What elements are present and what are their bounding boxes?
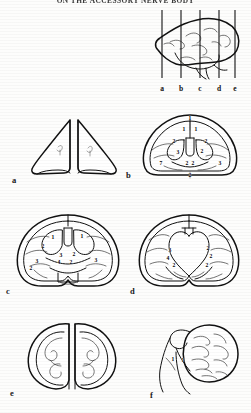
panel-letter-d: d <box>130 286 135 296</box>
callout-b-11: 3 <box>219 161 222 167</box>
panel-e: e <box>22 320 122 392</box>
callout-c-6: 3 <box>36 259 39 265</box>
plane-label-d: d <box>214 84 224 93</box>
callout-f-1: 1 <box>172 357 175 363</box>
callout-b-8: 7 <box>160 161 163 167</box>
callout-c-5: 2 <box>73 252 76 258</box>
panel-letter-a: a <box>12 175 16 185</box>
callout-b-4: 2 <box>173 139 176 145</box>
panel-d: 3 2 4 2 2 2 d <box>136 212 242 290</box>
plane-label-e: e <box>230 84 240 93</box>
panel-b: 1 1 1 2 2 3 2 7 2 2 3 2 b <box>140 112 240 178</box>
panel-letter-b: b <box>126 170 131 180</box>
callout-b-9: 2 <box>186 161 189 167</box>
callout-c-2: 1 <box>81 234 84 240</box>
plane-label-a: a <box>157 84 167 93</box>
callout-b-12: 2 <box>189 173 192 179</box>
panel-letter-e: e <box>10 388 14 398</box>
key-diagram-lateral-brain: a b c d e <box>148 6 246 82</box>
callout-b-5: 2 <box>205 139 208 145</box>
callout-c-4: 3 <box>60 253 63 259</box>
callout-d-4: 2 <box>210 254 213 260</box>
callout-b-1: 1 <box>189 116 192 122</box>
callout-b-2: 1 <box>183 127 186 133</box>
callout-c-3: 2 <box>42 244 45 250</box>
plane-label-b: b <box>176 84 186 93</box>
callout-d-5: 2 <box>173 263 176 269</box>
plane-label-c: c <box>195 84 205 93</box>
panel-f: 1 1 f <box>146 318 246 394</box>
callout-d-2: 2 <box>207 246 210 252</box>
running-head: ON THE ACCESSORY NERVE BODY <box>0 0 251 4</box>
panel-letter-f: f <box>150 390 153 400</box>
panel-a: a <box>28 117 124 179</box>
callout-c-9: 3 <box>95 258 98 264</box>
callout-b-3: 1 <box>195 127 198 133</box>
figure-plate: ON THE ACCESSORY NERVE BODY <box>0 0 251 413</box>
panel-c: 1 1 2 3 2 3 4 2 3 2 c <box>14 212 122 290</box>
callout-b-10: 2 <box>192 161 195 167</box>
callout-f-2: 1 <box>182 358 185 364</box>
callout-b-7: 2 <box>201 149 204 155</box>
callout-d-1: 3 <box>169 248 172 254</box>
callout-c-7: 4 <box>58 260 61 266</box>
callout-b-6: 3 <box>177 150 180 156</box>
panel-letter-c: c <box>6 286 10 296</box>
callout-c-10: 2 <box>30 266 33 272</box>
callout-c-8: 2 <box>70 260 73 266</box>
callout-d-3: 4 <box>167 256 170 262</box>
callout-c-1: 1 <box>52 235 55 241</box>
callout-d-6: 2 <box>206 263 209 269</box>
